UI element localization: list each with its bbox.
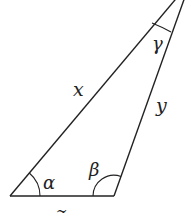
side-label-z: z — [55, 202, 67, 213]
angle-label-gamma: γ — [152, 33, 163, 54]
angle-arc-gamma — [152, 23, 171, 32]
angle-label-alpha: α — [43, 172, 55, 193]
angle-arc-alpha — [29, 173, 40, 196]
side-label-x: x — [73, 78, 84, 100]
angle-label-beta: β — [88, 159, 99, 180]
side-label-y: y — [155, 94, 167, 116]
triangle-diagram: γ x y α β z — [0, 0, 190, 213]
